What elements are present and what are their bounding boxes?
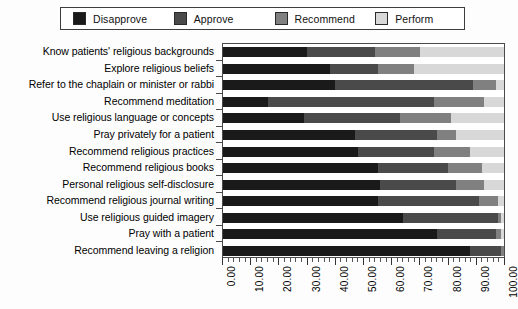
x-axis-minor-tick — [295, 258, 296, 262]
bar-segment-recommend — [375, 47, 420, 57]
x-axis-tick-label: 10.00 — [254, 266, 265, 292]
bar-segment-approve — [470, 246, 501, 256]
bar-row — [223, 113, 504, 123]
legend-item-label: Approve — [194, 13, 234, 25]
bar-segment-perform — [484, 180, 504, 190]
bar-segment-approve — [307, 47, 374, 57]
x-axis-minor-tick — [245, 258, 246, 262]
x-axis-minor-tick — [324, 258, 325, 262]
y-axis-tick — [216, 159, 222, 160]
y-axis-tick — [216, 126, 222, 127]
y-axis-label: Recommend leaving a religion — [0, 244, 218, 256]
y-axis-label: Recommend religious books — [0, 161, 218, 173]
bar-row — [223, 47, 504, 57]
bar-row — [223, 229, 504, 239]
y-axis-label: Personal religious self-disclosure — [0, 178, 218, 190]
plot-area — [222, 43, 505, 258]
bar-segment-approve — [437, 229, 496, 239]
x-axis-minor-tick — [493, 258, 494, 262]
y-axis-label: Recommend meditation — [0, 95, 218, 107]
x-axis-minor-tick — [498, 258, 499, 262]
x-axis-tick-label: 20.00 — [282, 266, 293, 292]
bar-segment-recommend — [501, 246, 504, 256]
x-axis-minor-tick — [374, 258, 375, 262]
x-axis-tick-label: 30.00 — [311, 266, 322, 292]
x-axis-minor-tick — [470, 258, 471, 262]
x-axis-minor-tick — [459, 258, 460, 262]
x-axis-minor-tick — [290, 258, 291, 262]
y-axis-label: Explore religious beliefs — [0, 62, 218, 74]
legend-item-disapprove[interactable]: Disapprove — [61, 12, 162, 25]
bar-segment-disapprove — [223, 80, 335, 90]
x-axis-major-tick — [391, 258, 392, 265]
y-axis-tick — [216, 175, 222, 176]
y-axis-label: Pray privately for a patient — [0, 128, 218, 140]
bar-segment-disapprove — [223, 130, 355, 140]
bar-segment-perform — [498, 196, 504, 206]
x-axis-minor-tick — [284, 258, 285, 262]
x-axis-minor-tick — [431, 258, 432, 262]
bar-segment-approve — [330, 64, 378, 74]
x-axis-minor-tick — [453, 258, 454, 262]
bar-row — [223, 97, 504, 107]
x-axis-major-tick — [307, 258, 308, 265]
y-axis-label: Refer to the chaplain or minister or rab… — [0, 78, 218, 90]
bar-segment-disapprove — [223, 47, 307, 57]
x-axis-minor-tick — [408, 258, 409, 262]
x-axis-tick-label: 50.00 — [367, 266, 378, 292]
bar-row — [223, 64, 504, 74]
bar-segment-disapprove — [223, 180, 380, 190]
x-axis-minor-tick — [346, 258, 347, 262]
y-axis-tick — [216, 192, 222, 193]
x-axis-minor-tick — [239, 258, 240, 262]
bar-segment-recommend — [448, 163, 482, 173]
legend-swatch-icon — [73, 12, 86, 25]
bar-segment-disapprove — [223, 64, 330, 74]
bar-segment-approve — [378, 163, 448, 173]
x-axis-major-tick — [419, 258, 420, 265]
legend-item-label: Perform — [395, 13, 433, 25]
x-axis-minor-tick — [425, 258, 426, 262]
x-axis-minor-tick — [380, 258, 381, 262]
x-axis-minor-tick — [233, 258, 234, 262]
x-axis-major-tick — [363, 258, 364, 265]
y-axis-tick — [216, 225, 222, 226]
legend-item-approve[interactable]: Approve — [162, 12, 263, 25]
bar-segment-recommend — [378, 64, 415, 74]
x-axis-minor-tick — [369, 258, 370, 262]
bar-segment-perform — [496, 80, 504, 90]
legend-swatch-icon — [174, 12, 187, 25]
x-axis-minor-tick — [340, 258, 341, 262]
bar-segment-perform — [420, 47, 504, 57]
chart-legend: DisapproveApproveRecommendPerform — [60, 7, 465, 30]
bar-row — [223, 180, 504, 190]
bar-segment-recommend — [434, 147, 471, 157]
bar-segment-recommend — [434, 97, 485, 107]
y-axis-label: Use religious language or concepts — [0, 111, 218, 123]
x-axis-tick-label: 0.00 — [226, 266, 237, 286]
x-axis-tick-label: 100.00 — [508, 266, 518, 298]
x-axis-major-tick — [222, 258, 223, 265]
legend-item-perform[interactable]: Perform — [363, 12, 464, 25]
bar-row — [223, 80, 504, 90]
y-axis-tick — [216, 241, 222, 242]
bar-segment-approve — [335, 80, 473, 90]
y-axis-tick — [216, 76, 222, 77]
bar-segment-disapprove — [223, 163, 378, 173]
x-axis-minor-tick — [256, 258, 257, 262]
bar-segment-approve — [380, 180, 456, 190]
stacked-bar-chart: DisapproveApproveRecommendPerform Know p… — [0, 0, 518, 309]
bar-row — [223, 213, 504, 223]
x-axis-minor-tick — [465, 258, 466, 262]
bar-segment-perform — [451, 113, 504, 123]
x-axis-minor-tick — [357, 258, 358, 262]
legend-item-recommend[interactable]: Recommend — [263, 12, 364, 25]
bar-segment-perform — [470, 147, 504, 157]
bar-segment-disapprove — [223, 213, 403, 223]
legend-item-label: Recommend — [295, 13, 355, 25]
bar-segment-disapprove — [223, 196, 378, 206]
y-axis-label: Pray with a patient — [0, 227, 218, 239]
legend-item-label: Disapprove — [93, 13, 147, 25]
y-axis-label: Recommend religious journal writing — [0, 194, 218, 206]
bar-segment-recommend — [473, 80, 495, 90]
